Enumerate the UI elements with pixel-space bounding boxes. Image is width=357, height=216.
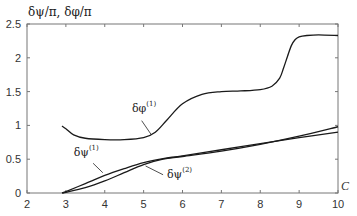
annotation-pointer [142, 121, 152, 135]
x-tick-label: 6 [179, 198, 185, 210]
series-annotation: δψ(1) [74, 144, 99, 159]
x-tick-label: 4 [102, 198, 108, 210]
series-lines [62, 35, 338, 193]
series-line [62, 35, 338, 140]
y-tick-label: 1 [15, 119, 21, 131]
x-tick-label: 7 [218, 198, 224, 210]
y-tick-label: 2.5 [6, 18, 21, 30]
series-line [62, 127, 338, 193]
y-tick-label: 2 [15, 52, 21, 64]
y-tick-label: 1.5 [6, 86, 21, 98]
x-tick-label: 5 [141, 198, 147, 210]
x-tick-label: 2 [24, 198, 30, 210]
y-tick-label: 0.5 [6, 153, 21, 165]
annotation-pointer [93, 163, 103, 172]
x-tick-label: 9 [296, 198, 302, 210]
series-annotation: δφ(1) [132, 100, 157, 115]
annotation-pointer [146, 166, 163, 175]
series-line [62, 132, 338, 193]
y-axis-label: δψ/π, δφ/π [28, 5, 92, 19]
ticks: 234567891000.511.522.5 [6, 18, 344, 210]
x-tick-label: 8 [257, 198, 263, 210]
x-axis-label: C [341, 179, 350, 193]
y-tick-label: 0 [15, 187, 21, 199]
line-chart: 234567891000.511.522.5 δφ(1)δψ(1)δψ(2) δ… [0, 0, 357, 216]
x-tick-label: 10 [332, 198, 344, 210]
x-tick-label: 3 [63, 198, 69, 210]
series-annotation: δψ(2) [167, 166, 192, 181]
